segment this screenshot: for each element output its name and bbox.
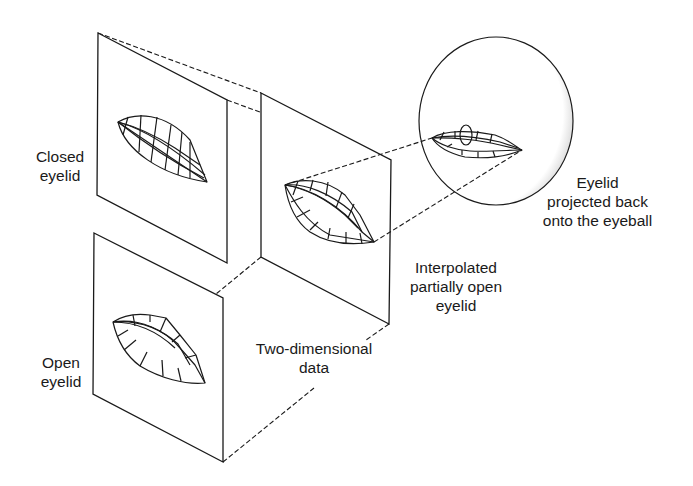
interpolated-label-line3: eyelid xyxy=(396,296,516,315)
interpolated-label-line1: Interpolated xyxy=(396,258,516,277)
closed-eyelid-label-line1: Closed xyxy=(30,147,90,166)
connector-interp-label xyxy=(366,324,389,340)
connector-two-d-label xyxy=(223,388,314,462)
open-eyelid-label-line2: eyelid xyxy=(31,372,91,391)
connector-open-interp xyxy=(216,257,261,294)
closed-eyelid-panel xyxy=(97,33,227,263)
interpolated-label-line2: partially open xyxy=(396,277,516,296)
eyeball-label: Eyelid projected back onto the eyeball xyxy=(530,173,665,230)
closed-eyelid-label-line2: eyelid xyxy=(30,166,90,185)
two-d-label-line2: data xyxy=(244,358,384,377)
open-eyelid-label-line1: Open xyxy=(31,353,91,372)
eyeball-label-line3: onto the eyeball xyxy=(530,211,665,230)
two-d-label-line1: Two-dimensional xyxy=(244,339,384,358)
two-dimensional-data-label: Two-dimensional data xyxy=(244,339,384,377)
closed-eyelid-label: Closed eyelid xyxy=(30,147,90,185)
interpolated-eyelid-label: Interpolated partially open eyelid xyxy=(396,258,516,315)
eyeball-label-line2: projected back xyxy=(530,192,665,211)
open-eyelid-panel xyxy=(93,233,223,462)
eyeball-label-line1: Eyelid xyxy=(530,173,665,192)
open-eyelid-label: Open eyelid xyxy=(31,353,91,391)
eyelid-diagram xyxy=(0,0,693,486)
interpolated-eyelid-panel xyxy=(261,93,391,324)
